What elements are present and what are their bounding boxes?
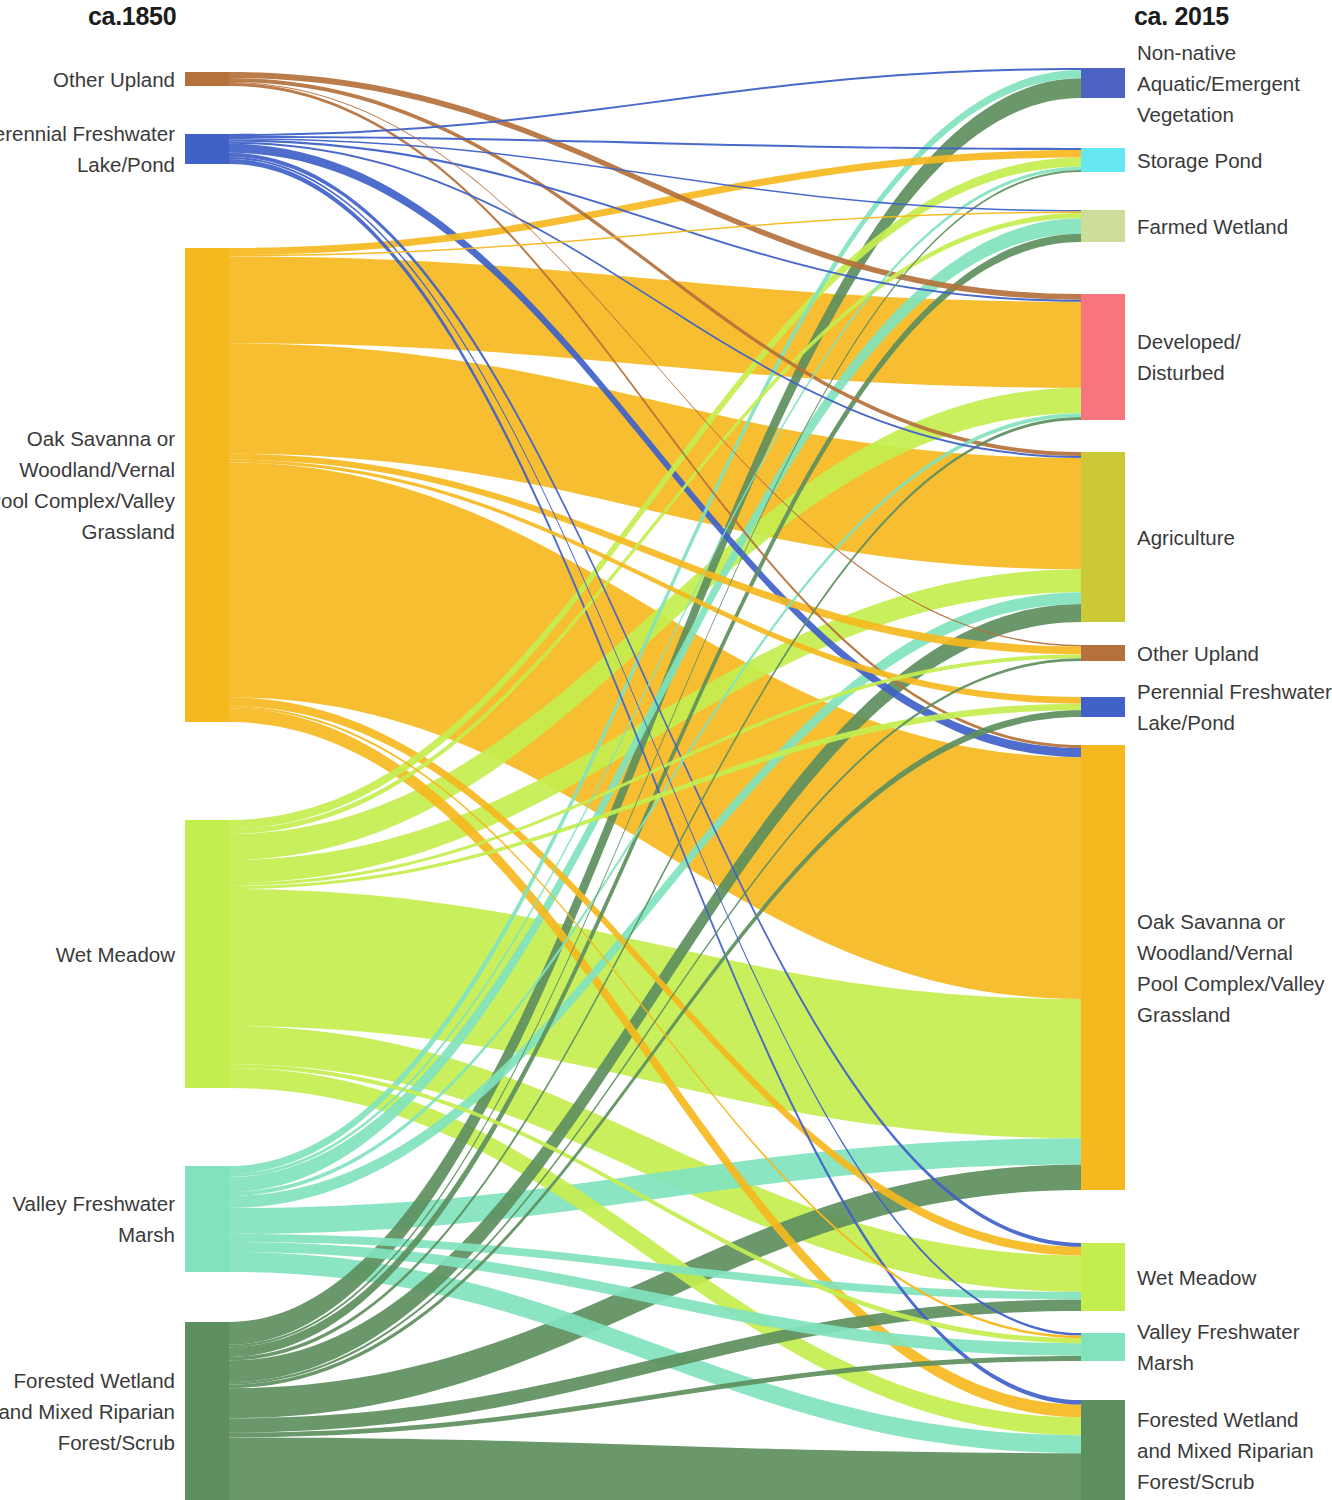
node-label-r-wet-meadow: Wet Meadow [1137, 1262, 1256, 1293]
sankey-node[interactable] [1081, 68, 1125, 98]
node-label-l-forested-wetland: Forested Wetland and Mixed Riparian Fore… [0, 1365, 175, 1458]
column-title-right: ca. 2015 [1134, 2, 1229, 31]
column-title-left: ca.1850 [88, 2, 176, 31]
sankey-node[interactable] [185, 1322, 229, 1500]
sankey-node[interactable] [1081, 294, 1125, 420]
node-label-r-developed: Developed/ Disturbed [1137, 326, 1241, 388]
sankey-node[interactable] [185, 134, 229, 164]
node-label-l-wet-meadow: Wet Meadow [56, 939, 175, 970]
sankey-node[interactable] [1081, 645, 1125, 661]
node-label-r-perennial-lake: Perennial Freshwater Lake/Pond [1137, 676, 1332, 738]
node-label-l-valley-marsh: Valley Freshwater Marsh [12, 1188, 175, 1250]
node-label-l-oak-savanna: Oak Savanna or Woodland/Vernal Pool Comp… [0, 423, 175, 548]
node-label-r-oak-savanna: Oak Savanna or Woodland/Vernal Pool Comp… [1137, 906, 1325, 1031]
sankey-node[interactable] [1081, 210, 1125, 242]
node-label-r-agriculture: Agriculture [1137, 522, 1235, 553]
node-label-l-perennial-lake: Perennial Freshwater Lake/Pond [0, 118, 175, 180]
sankey-link [229, 1437, 1081, 1500]
node-label-r-valley-marsh: Valley Freshwater Marsh [1137, 1316, 1300, 1378]
sankey-node[interactable] [185, 1166, 229, 1272]
sankey-node[interactable] [1081, 697, 1125, 717]
sankey-node[interactable] [1081, 745, 1125, 1190]
node-label-r-forested-wetland: Forested Wetland and Mixed Riparian Fore… [1137, 1404, 1314, 1497]
sankey-node[interactable] [1081, 1333, 1125, 1361]
sankey-node[interactable] [1081, 1243, 1125, 1311]
sankey-node[interactable] [185, 248, 229, 722]
node-label-r-other-upland: Other Upland [1137, 638, 1259, 669]
node-label-r-nonnative-aquatic: Non-native Aquatic/Emergent Vegetation [1137, 37, 1300, 130]
sankey-node[interactable] [1081, 148, 1125, 172]
node-label-r-storage-pond: Storage Pond [1137, 145, 1262, 176]
sankey-node[interactable] [1081, 1400, 1125, 1500]
sankey-node[interactable] [1081, 452, 1125, 622]
node-label-l-other-upland: Other Upland [53, 64, 175, 95]
sankey-node[interactable] [185, 72, 229, 86]
node-label-r-farmed-wetland: Farmed Wetland [1137, 211, 1288, 242]
sankey-links [229, 68, 1081, 1500]
sankey-node[interactable] [185, 820, 229, 1088]
